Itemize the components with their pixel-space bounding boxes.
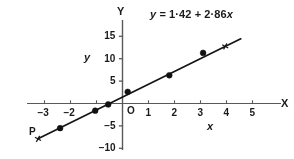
equation-slope: 2·86: [204, 8, 226, 20]
data-point-3: [125, 89, 131, 95]
chart-figure: y = 1·42 + 2·86x Y X y x O P −3−212345 −…: [0, 0, 294, 159]
data-point-5: [200, 50, 206, 56]
equation-annotation: y = 1·42 + 2·86x: [150, 9, 233, 20]
x-axis-label: x: [207, 121, 213, 132]
data-point-4: [166, 72, 172, 78]
x-tick-label-7: 5: [250, 108, 255, 118]
equation-lhs: y: [150, 8, 156, 20]
x-tick-label-0: −3: [38, 108, 49, 118]
y-axis-label: y: [84, 52, 90, 63]
y-axis-letter: Y: [117, 6, 124, 17]
plot-canvas: [0, 0, 294, 159]
data-point-1: [92, 108, 98, 114]
y-tick-label-3: 10: [104, 54, 115, 64]
equation-equals: =: [159, 8, 166, 20]
x-axis-letter: X: [281, 98, 288, 109]
x-tick-label-5: 3: [198, 108, 203, 118]
x-tick-label-4: 2: [172, 108, 177, 118]
y-tick-label-1: −5: [104, 121, 115, 131]
equation-plus: +: [195, 8, 202, 20]
x-tick-label-1: −2: [64, 108, 75, 118]
data-point-2: [105, 101, 111, 107]
equation-intercept: 1·42: [169, 8, 191, 20]
x-tick-label-6: 4: [224, 108, 229, 118]
y-tick-label-0: −10: [99, 143, 116, 153]
data-point-0: [57, 125, 63, 131]
point-label-p: P: [29, 127, 36, 137]
x-tick-label-3: 1: [146, 108, 151, 118]
axes-group: [27, 20, 281, 150]
equation-variable: x: [227, 8, 233, 20]
y-tick-label-4: 15: [104, 31, 115, 41]
origin-label: O: [127, 106, 135, 116]
y-tick-label-2: 5: [110, 76, 115, 86]
